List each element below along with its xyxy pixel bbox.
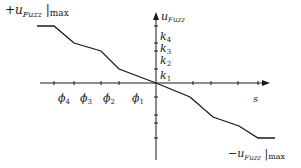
svg-text:ϕ3: ϕ3 [80,92,92,106]
svg-text:ϕ2: ϕ2 [103,92,115,106]
svg-text:ϕ1: ϕ1 [132,92,144,106]
svg-text:ϕ4: ϕ4 [58,92,71,106]
x-axis-arrow-icon [262,80,270,86]
u-fuzz-max-positive-label: +uFuzz |max [5,3,69,19]
phi-labels: ϕ4 ϕ3 ϕ2 ϕ1 [58,92,144,106]
y-axis-arrow-icon [153,12,159,20]
svg-text:k2: k2 [160,54,171,68]
fuzzy-output-diagram: +uFuzz |max uFuzz k4 k3 k2 k1 ϕ4 ϕ3 ϕ2 ϕ… [0,0,301,168]
u-fuzz-max-negative-label: −uFuzz |max [228,147,286,162]
y-axis-label: uFuzz [161,10,185,24]
x-axis-label: s [253,93,258,104]
svg-text:k1: k1 [160,69,171,83]
k-labels: k4 k3 k2 k1 [160,30,172,83]
